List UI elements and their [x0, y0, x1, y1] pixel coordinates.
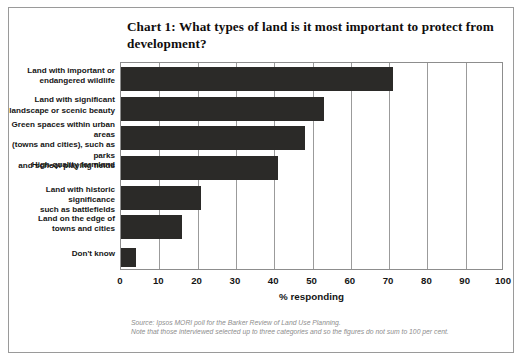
x-tick-100: 100	[483, 275, 523, 286]
category-label-line: Land with important or	[0, 66, 115, 76]
chart-footnote: Source: Ipsos MORI poll for the Barker R…	[131, 318, 501, 337]
x-axis-label: % responding	[120, 291, 503, 302]
x-tick-20: 20	[177, 275, 217, 286]
category-label-line: landscape or scenic beauty	[0, 106, 115, 116]
category-label: Land with important orendangered wildlif…	[0, 66, 115, 86]
x-tick-0: 0	[100, 275, 140, 286]
chart-figure: Chart 1: What types of land is it most i…	[0, 0, 524, 362]
x-tick-30: 30	[215, 275, 255, 286]
category-label-line: High-quality farmland	[0, 160, 115, 170]
category-label-line: Land with historic significance	[0, 185, 115, 205]
x-tick-60: 60	[330, 275, 370, 286]
category-label: Don't know	[0, 249, 115, 259]
category-label: Land with historic significancesuch as b…	[0, 185, 115, 216]
category-label: Land on the edge oftowns and cities	[0, 214, 115, 234]
category-label-line: Green spaces within urban areas	[0, 120, 115, 140]
category-label-line: (towns and cities), such as parks	[0, 140, 115, 160]
x-tick-70: 70	[368, 275, 408, 286]
category-label-line: Land with significant	[0, 95, 115, 105]
x-tick-50: 50	[292, 275, 332, 286]
footnote-source: Source: Ipsos MORI poll for the Barker R…	[131, 318, 501, 327]
y-axis-category-labels: Land with important orendangered wildlif…	[0, 0, 524, 362]
x-tick-90: 90	[445, 275, 485, 286]
x-tick-80: 80	[406, 275, 446, 286]
category-label-line: Land on the edge of	[0, 214, 115, 224]
category-label-line: Don't know	[0, 249, 115, 259]
category-label: High-quality farmland	[0, 160, 115, 170]
x-tick-10: 10	[138, 275, 178, 286]
category-label-line: towns and cities	[0, 224, 115, 234]
x-tick-40: 40	[253, 275, 293, 286]
category-label: Land with significantlandscape or scenic…	[0, 95, 115, 115]
footnote-note: Note that those interviewed selected up …	[131, 327, 501, 336]
category-label-line: endangered wildlife	[0, 76, 115, 86]
